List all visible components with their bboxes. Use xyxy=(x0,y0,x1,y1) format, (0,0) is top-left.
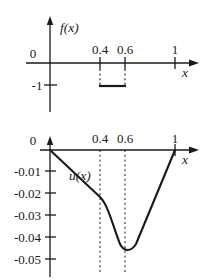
bottom-plot-svg: 0 0.4 0.6 1 -0.01 -0.02 -0.03 -0.04 -0.0… xyxy=(0,132,204,280)
bottom-ytick-label-0.03: -0.03 xyxy=(14,208,41,223)
bottom-xlabel-x: x xyxy=(181,152,188,167)
bottom-xtick-label-0.6: 0.6 xyxy=(117,132,134,146)
bottom-series-u-curve xyxy=(50,150,175,250)
bottom-y-axis xyxy=(47,136,53,277)
bottom-xtick-label-0.4: 0.4 xyxy=(92,132,109,146)
bottom-ytick-label-0.01: -0.01 xyxy=(14,164,41,179)
top-ytick-label-minus-1: -1 xyxy=(32,78,43,93)
chart-bottom-u-of-x: 0 0.4 0.6 1 -0.01 -0.02 -0.03 -0.04 -0.0… xyxy=(0,132,204,280)
top-ylabel-f-of-x: f(x) xyxy=(60,20,79,35)
bottom-dashed-guides xyxy=(100,150,125,272)
bottom-origin-label: 0 xyxy=(30,133,37,148)
figure-container: f(x) 0 0.4 0.6 1 -1 x xyxy=(0,0,204,280)
bottom-curve-label-u-of-x: u(x) xyxy=(69,168,91,183)
top-y-axis xyxy=(47,16,53,112)
top-xlabel-x: x xyxy=(181,65,188,80)
bottom-xtick-label-1: 1 xyxy=(172,132,179,146)
top-dashed-guides xyxy=(100,69,125,85)
top-xtick-label-0.4: 0.4 xyxy=(92,42,109,57)
bottom-ytick-label-0.02: -0.02 xyxy=(14,186,41,201)
chart-top-f-of-x: f(x) 0 0.4 0.6 1 -1 x xyxy=(0,0,204,132)
top-plot-svg: f(x) 0 0.4 0.6 1 -1 x xyxy=(0,0,204,132)
top-origin-label: 0 xyxy=(30,46,37,61)
bottom-ytick-label-0.05: -0.05 xyxy=(14,252,41,267)
top-xtick-label-0.6: 0.6 xyxy=(117,42,134,57)
top-xtick-label-1: 1 xyxy=(172,42,179,57)
top-x-axis xyxy=(26,60,199,67)
bottom-ytick-label-0.04: -0.04 xyxy=(14,230,42,245)
